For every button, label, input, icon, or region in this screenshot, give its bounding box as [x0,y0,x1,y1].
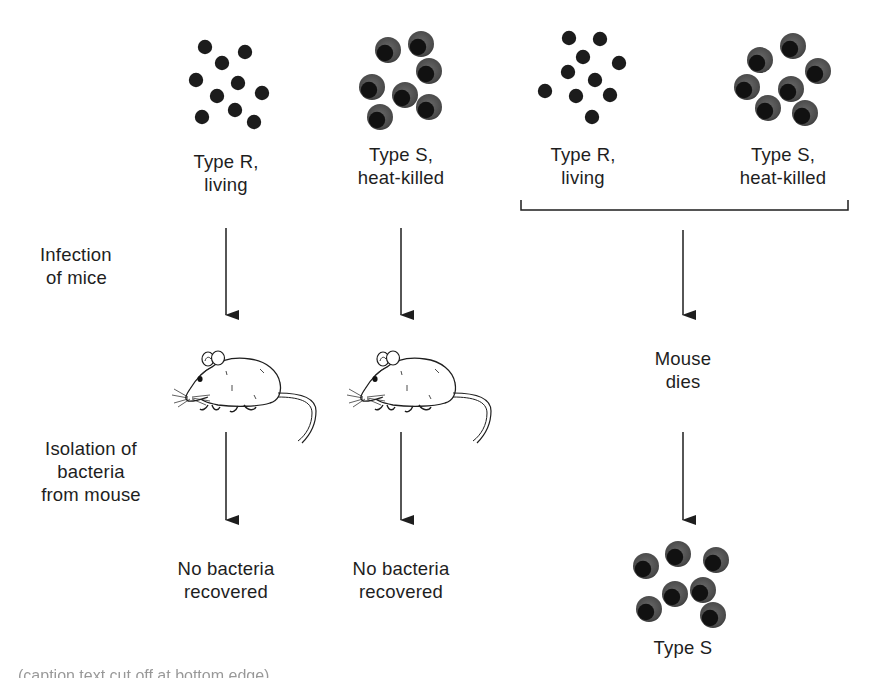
row-label-isolation: Isolation of bacteria from mouse [30,437,152,506]
strain-label-col2-line1: Type S, [345,143,457,166]
strain-label-col3a-line1: Type R, [543,143,623,166]
strain-label-col3a: Type R, living [543,143,623,189]
griffith-experiment-diagram: Type R, living Type S, heat-killed Type … [0,0,882,678]
type-r-bacteria-cluster-3 [538,31,626,124]
outcome-col2-line2: recovered [341,580,461,603]
mouse-illustration-1 [172,351,316,443]
strain-label-col3a-line2: living [543,166,623,189]
mouse-dies-label: Mouse dies [643,347,723,393]
strain-label-col1-line2: living [186,173,266,196]
outcome-col3-label: Type S [643,636,723,659]
figure-caption-text: (caption text cut off at bottom edge) [18,668,882,678]
outcome-col2: No bacteria recovered [341,557,461,603]
type-r-bacteria-cluster-1 [189,40,269,129]
type-s-bacteria-cluster-2 [359,31,442,130]
outcome-col2-line1: No bacteria [341,557,461,580]
row-label-isolation-line2: bacteria [30,460,152,483]
outcome-col3: Type S [643,636,723,659]
strain-label-col3b-line2: heat-killed [727,166,839,189]
mixture-bracket [521,200,848,210]
row-label-isolation-line1: Isolation of [30,437,152,460]
strain-label-col2-line2: heat-killed [345,166,457,189]
strain-label-col3b: Type S, heat-killed [727,143,839,189]
row-label-infection-line2: of mice [40,266,112,289]
row-label-infection-line1: Infection [40,243,112,266]
mouse-dies-line2: dies [643,370,723,393]
type-s-bacteria-cluster-4 [734,33,831,126]
mouse-illustration-2 [347,351,491,443]
strain-label-col1: Type R, living [186,150,266,196]
strain-label-col3b-line1: Type S, [727,143,839,166]
outcome-col1-line1: No bacteria [166,557,286,580]
row-label-infection: Infection of mice [40,243,112,289]
strain-label-col2: Type S, heat-killed [345,143,457,189]
type-s-bacteria-recovered [633,541,729,628]
strain-label-col1-line1: Type R, [186,150,266,173]
outcome-col1-line2: recovered [166,580,286,603]
row-label-isolation-line3: from mouse [30,483,152,506]
mouse-dies-line1: Mouse [643,347,723,370]
outcome-col1: No bacteria recovered [166,557,286,603]
figure-caption-truncated: (caption text cut off at bottom edge) [18,668,882,678]
